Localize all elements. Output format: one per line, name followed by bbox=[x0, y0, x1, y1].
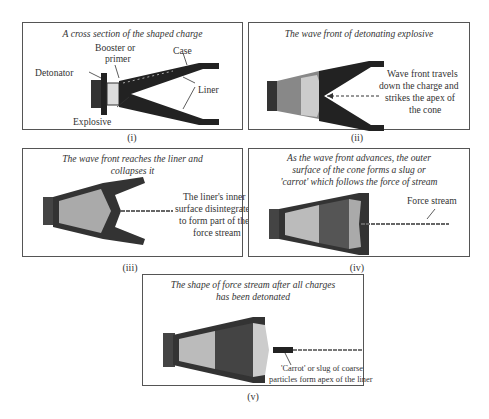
liner-l3: to form part of the bbox=[179, 215, 249, 226]
liner-l1: The liner's inner bbox=[183, 191, 245, 202]
panel-ii: The wave front of detonating explosive W… bbox=[248, 22, 470, 130]
liner-l2: surface disintegrates bbox=[175, 203, 254, 214]
explosive-label: Explosive bbox=[73, 116, 111, 127]
panel-iii-label: (iii) bbox=[110, 262, 150, 273]
case-label: Case bbox=[173, 45, 192, 56]
detonator-label: Detonator bbox=[35, 67, 73, 78]
force-stream-label: Force stream bbox=[407, 195, 457, 206]
liner-label: Liner bbox=[198, 84, 219, 95]
primer-label: primer bbox=[105, 53, 131, 64]
panel-i: A cross section of the shaped charge Boo… bbox=[22, 22, 243, 130]
panel-iii: The wave front reaches the liner and col… bbox=[22, 148, 243, 257]
panel-ii-label: (ii) bbox=[337, 132, 377, 143]
wave-l3: strikes the apex of bbox=[385, 92, 455, 103]
liner-l4: force stream bbox=[193, 227, 241, 238]
panel-v-label: (v) bbox=[233, 391, 273, 402]
panel-iv: As the wave front advances, the outer su… bbox=[248, 148, 470, 257]
booster-label: Booster or bbox=[95, 42, 135, 53]
wave-l4: the cone bbox=[409, 104, 441, 115]
panel-iv-label: (iv) bbox=[337, 262, 377, 273]
carrot-l2: particles form apex of the liner bbox=[269, 374, 372, 385]
wave-l1: Wave front travels bbox=[387, 68, 458, 79]
carrot-l1: 'Carrot' or slug of coarse bbox=[281, 363, 363, 374]
panel-i-label: (i) bbox=[112, 132, 152, 143]
panel-v: The shape of force stream after all char… bbox=[142, 274, 364, 386]
wave-l2: down the charge and bbox=[379, 80, 458, 91]
